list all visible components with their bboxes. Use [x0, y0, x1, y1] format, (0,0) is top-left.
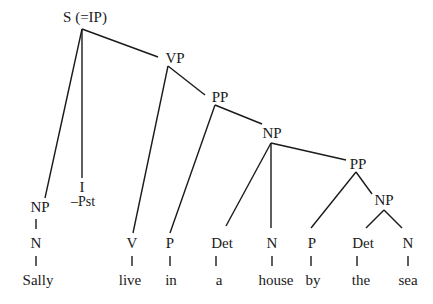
node-vp: VP [165, 51, 184, 66]
word-by: by [306, 273, 321, 288]
node-pp-2: PP [350, 157, 367, 172]
edge-np-pp [271, 143, 346, 160]
edge-pp-p [170, 105, 215, 233]
edge-pp2-np [356, 172, 372, 194]
node-det: Det [211, 236, 233, 251]
edge-np-det [226, 143, 271, 226]
edge-s-vp [82, 29, 158, 57]
edge-np2-det [366, 210, 384, 228]
word-the: the [352, 273, 370, 288]
node-n-2: N [403, 236, 414, 251]
word-house: house [259, 273, 294, 288]
tree-edges [0, 0, 433, 304]
node-v: V [127, 236, 138, 251]
node-pp: PP [212, 90, 229, 105]
node-np-subject: NP [30, 200, 49, 215]
edge-vp-pp [168, 66, 205, 95]
node-det-2: Det [352, 236, 374, 251]
node-n: N [267, 236, 278, 251]
node-n-subject: N [31, 236, 42, 251]
node-np: NP [262, 126, 281, 141]
edge-vp-v [133, 66, 168, 233]
node-s: S (=IP) [63, 10, 107, 25]
edge-pp2-p [311, 172, 356, 228]
node-np-2: NP [374, 193, 393, 208]
word-live: live [119, 273, 142, 288]
node-p: P [166, 236, 174, 251]
node-i: I [80, 180, 85, 195]
word-a: a [216, 273, 223, 288]
node-i-feature: –Pst [71, 194, 95, 209]
word-in: in [165, 273, 177, 288]
edge-pp-np [215, 105, 262, 124]
edge-np2-n [384, 210, 402, 228]
word-sally: Sally [23, 273, 54, 288]
word-sea: sea [398, 273, 417, 288]
node-p-2: P [308, 236, 316, 251]
edge-s-np [45, 29, 82, 198]
